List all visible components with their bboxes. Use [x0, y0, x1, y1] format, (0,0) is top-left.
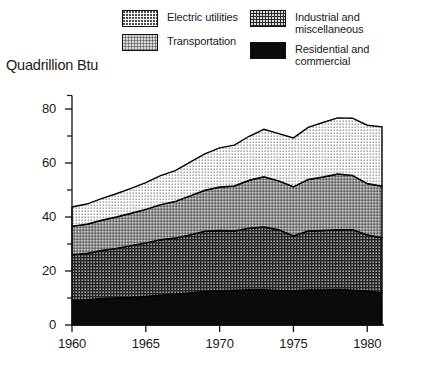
chart-figure: Electric utilities Transportation Indust… — [0, 0, 425, 367]
x-tick-label-1965: 1965 — [121, 336, 171, 351]
chart-canvas — [0, 0, 425, 367]
stacked-area-bands — [72, 118, 382, 325]
y-tick-label-40: 40 — [26, 209, 56, 224]
y-tick-label-0: 0 — [26, 317, 56, 332]
x-tick-label-1980: 1980 — [342, 336, 392, 351]
plot-area: 02040608019601965197019751980 — [0, 0, 425, 367]
x-tick-label-1970: 1970 — [195, 336, 245, 351]
x-tick-label-1975: 1975 — [268, 336, 318, 351]
y-tick-label-20: 20 — [26, 263, 56, 278]
y-tick-label-60: 60 — [26, 155, 56, 170]
x-tick-label-1960: 1960 — [47, 336, 97, 351]
y-tick-label-80: 80 — [26, 101, 56, 116]
